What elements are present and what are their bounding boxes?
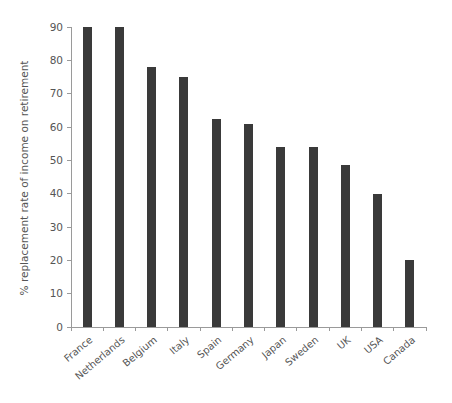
bar [244, 124, 253, 327]
x-axis-tick-label: Italy [168, 334, 192, 356]
bars-layer [83, 27, 415, 327]
bar [212, 119, 221, 327]
y-axis-title-text: % replacement rate of income on retireme… [18, 61, 30, 296]
x-axis-tick-label: Canada [381, 334, 417, 367]
x-axis-tick-label: USA [362, 334, 385, 356]
y-axis-tick-label: 50 [50, 154, 63, 166]
y-axis: 0102030405060708090 [50, 21, 71, 333]
y-axis-tick-label: 70 [50, 87, 63, 99]
y-axis-tick-label: 80 [50, 54, 63, 66]
y-axis-tick-label: 90 [50, 21, 63, 33]
y-axis-title: % replacement rate of income on retireme… [18, 61, 30, 296]
bar [83, 27, 92, 327]
y-axis-tick-label: 30 [50, 221, 63, 233]
bar [309, 147, 318, 327]
x-axis-tick-label: Belgium [120, 334, 158, 369]
y-axis-tick-label: 40 [50, 187, 63, 199]
bar [373, 194, 382, 327]
x-axis-tick-label: UK [335, 334, 353, 352]
x-axis: FranceNetherlandsBelgiumItalySpainGerman… [62, 327, 426, 382]
y-axis-tick-label: 60 [50, 121, 63, 133]
bar [276, 147, 285, 327]
y-axis-tick-label: 10 [50, 287, 63, 299]
bar [179, 77, 188, 327]
y-axis-tick-label: 0 [56, 321, 63, 333]
x-axis-tick-label: Sweden [283, 334, 320, 368]
bar [115, 27, 124, 327]
x-axis-tick-label: Japan [259, 334, 288, 361]
x-axis-tick-label: Spain [195, 334, 223, 360]
y-axis-tick-label: 20 [50, 254, 63, 266]
chart-canvas: % replacement rate of income on retireme… [0, 0, 452, 403]
bar [147, 67, 156, 327]
bar [341, 165, 350, 327]
bar-chart: % replacement rate of income on retireme… [0, 0, 452, 403]
bar [405, 260, 414, 327]
